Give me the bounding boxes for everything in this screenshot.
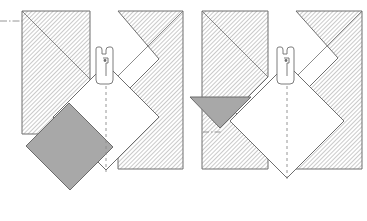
clamp-fastener-icon bbox=[285, 59, 288, 62]
diagram-canvas bbox=[0, 0, 367, 221]
technical-drawing-root bbox=[0, 0, 367, 221]
clamp-fastener-icon bbox=[104, 59, 107, 62]
